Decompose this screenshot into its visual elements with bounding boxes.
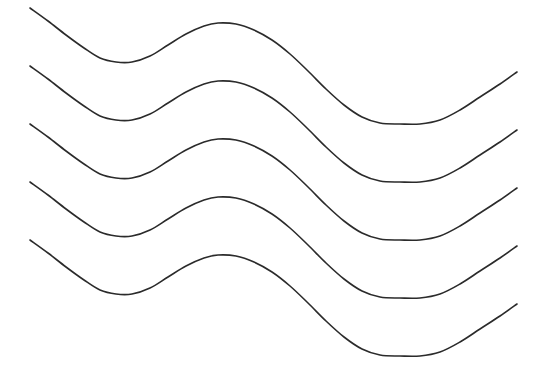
wave-figure-canvas (0, 0, 545, 381)
wave-curves-plot (0, 0, 545, 381)
plot-background (0, 0, 545, 381)
